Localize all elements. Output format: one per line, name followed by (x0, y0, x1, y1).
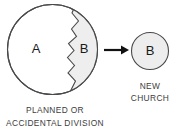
arrow-head (121, 46, 129, 55)
label-b-segment: B (80, 41, 89, 56)
label-b-new-church: B (146, 43, 155, 58)
new-church-caption-line-1: NEW (140, 81, 161, 91)
division-caption-line-2: ACCIDENTAL DIVISION (6, 118, 104, 128)
label-a: A (32, 41, 41, 56)
diagram-canvas: A B B NEW CHURCH PLANNED OR ACCIDENTAL D… (0, 0, 179, 138)
right-arrow-icon (104, 46, 129, 55)
church-division-diagram: A B B NEW CHURCH PLANNED OR ACCIDENTAL D… (0, 0, 179, 138)
new-church-caption-line-2: CHURCH (131, 93, 169, 103)
division-caption-line-1: PLANNED OR (26, 105, 84, 115)
